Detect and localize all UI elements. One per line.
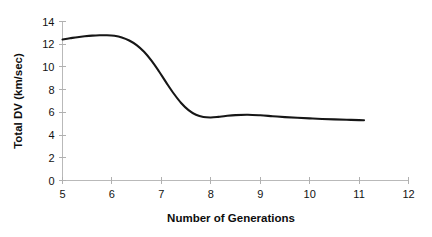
y-axis-title: Total DV (km/sec) — [12, 53, 24, 149]
x-tick-label: 5 — [59, 188, 65, 200]
y-tick-label: 8 — [48, 84, 54, 96]
line-chart: 02468101214 56789101112 Total DV (km/sec… — [0, 0, 432, 237]
chart-container: 02468101214 56789101112 Total DV (km/sec… — [0, 0, 432, 237]
x-tick-label: 11 — [353, 188, 364, 200]
y-axis-tick-labels: 02468101214 — [42, 16, 54, 187]
x-tick-label: 10 — [304, 188, 316, 200]
y-tick-label: 10 — [42, 61, 54, 73]
y-tick-label: 4 — [48, 129, 54, 141]
x-tick-label: 8 — [208, 188, 214, 200]
x-tick-label: 7 — [158, 188, 164, 200]
y-tick-label: 14 — [42, 16, 54, 28]
y-tick-label: 2 — [48, 152, 54, 164]
x-tick-label: 9 — [257, 188, 263, 200]
y-tick-label: 12 — [42, 38, 54, 50]
y-tick-label: 6 — [48, 106, 54, 118]
x-tick-label: 6 — [109, 188, 115, 200]
x-tick-label: 12 — [402, 188, 414, 200]
x-axis-title: Number of Generations — [167, 212, 295, 224]
data-series-line — [63, 35, 365, 120]
y-tick-label: 0 — [48, 175, 54, 187]
x-axis-tick-labels: 56789101112 — [59, 188, 414, 200]
